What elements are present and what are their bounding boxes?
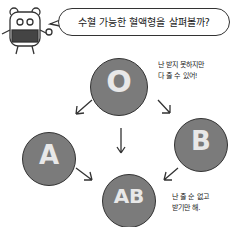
- o-note: 난 받지 못하지만 다 줄 수 있어!: [158, 60, 204, 82]
- blood-type-b-label: B: [174, 126, 228, 156]
- speech-bubble-text: 수혈 가능한 혈액형을 살펴볼까?: [64, 14, 224, 29]
- ab-note: 난 줄 순 없고 받기만 해.: [172, 192, 209, 214]
- o-note-line1: 난 받지 못하지만: [158, 60, 204, 71]
- ab-note-line2: 받기만 해.: [172, 203, 209, 214]
- blood-type-ab-label: AB: [102, 184, 156, 208]
- blood-type-o-label: O: [90, 64, 148, 99]
- mascot-icon: [2, 8, 52, 54]
- ab-note-line1: 난 줄 순 없고: [172, 192, 209, 203]
- blood-type-a-label: A: [22, 140, 76, 170]
- o-note-line2: 다 줄 수 있어!: [158, 71, 204, 82]
